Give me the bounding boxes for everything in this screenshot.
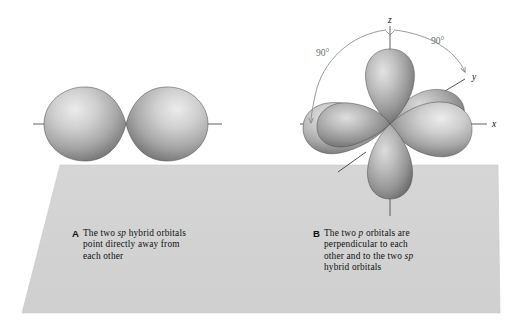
orbital-geometry-figure: z y x 90° 90° (0, 0, 518, 327)
caption-b-line4: hybrid orbitals (324, 262, 381, 272)
axis-label-y: y (471, 72, 477, 82)
caption-text-b: The two p orbitals are perpendicular to … (324, 228, 478, 274)
panel-a-orbitals (33, 87, 222, 161)
caption-b-line1: The two (324, 228, 359, 238)
caption-a-line1: The two (83, 228, 118, 238)
caption-panel-a: A The two sp hybrid orbitals point direc… (72, 228, 232, 262)
axis-label-z: z (387, 15, 392, 25)
caption-b-line1b: orbitals are (363, 228, 409, 238)
caption-a-em1: sp (118, 228, 127, 238)
caption-panel-b: B The two p orbitals are perpendicular t… (313, 228, 478, 274)
axis-label-x: x (491, 119, 497, 129)
sp-hybrid-lobe-right (126, 87, 208, 161)
caption-text-a: The two sp hybrid orbitals point directl… (83, 228, 232, 262)
caption-a-line3: each other (83, 251, 123, 261)
caption-b-em2: sp (405, 251, 414, 261)
angle-label-right: 90° (431, 35, 445, 46)
sp-hybrid-lobe-left (44, 87, 126, 161)
caption-a-line2: point directly away from (83, 239, 180, 249)
angle-label-left: 90° (316, 47, 330, 58)
caption-b-line3: other and to the two (324, 251, 405, 261)
caption-a-line1b: hybrid orbitals (126, 228, 186, 238)
caption-label-b: B (313, 228, 320, 239)
caption-b-line2: perpendicular to each (324, 239, 408, 249)
caption-label-a: A (72, 228, 79, 239)
